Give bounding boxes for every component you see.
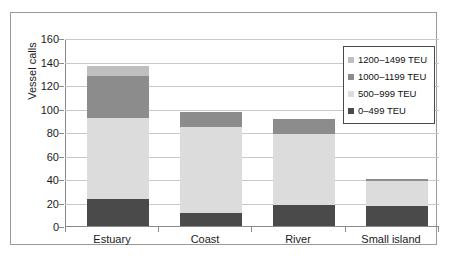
y-tick-label: 60 [15,152,59,163]
legend-swatch-icon [348,91,354,97]
x-tick-mark [438,227,439,232]
legend-item: 1200–1499 TEU [348,51,430,68]
legend-swatch-icon [348,57,354,63]
y-tick-mark [59,86,64,87]
legend-label: 1000–1199 TEU [358,72,426,82]
bar-segment-1000-1199 [273,119,335,134]
chart-frame: Vessel calls 160 140 120 100 80 60 40 20… [10,12,437,245]
y-tick-mark [59,204,64,205]
bar-segment-500-999 [180,127,242,213]
bar-segment-500-999 [87,118,149,199]
y-tick-label: 40 [15,175,59,186]
bar-small-island [366,179,428,226]
legend-label: 1200–1499 TEU [358,55,427,65]
y-axis-ticks: 160 140 120 100 80 60 40 20 0 [11,39,59,227]
bar-segment-500-999 [366,181,428,206]
y-tick-label: 20 [15,199,59,210]
y-tick-mark [59,39,64,40]
x-tick-label-small-island: Small island [336,233,446,245]
y-tick-mark [59,180,64,181]
y-tick-mark [59,227,64,228]
x-tick-mark [158,227,159,232]
bar-segment-1000-1199 [180,112,242,127]
bar-coast [180,112,242,226]
y-tick-label: 140 [15,58,59,69]
bar-segment-0-499 [180,213,242,226]
legend-label: 500–999 TEU [358,89,416,99]
chart-figure: Vessel calls 160 140 120 100 80 60 40 20… [0,0,449,260]
bar-segment-1000-1199 [87,76,149,118]
y-tick-label: 160 [15,34,59,45]
bar-segment-1200-1499 [87,66,149,75]
bar-segment-500-999 [273,134,335,205]
y-tick-mark [59,110,64,111]
bar-segment-0-499 [366,206,428,226]
bar-river [273,119,335,226]
legend-item: 0–499 TEU [348,102,430,119]
legend-swatch-icon [348,108,354,114]
x-axis-line [65,226,439,227]
legend: 1200–1499 TEU 1000–1199 TEU 500–999 TEU … [343,46,435,124]
x-tick-mark [251,227,252,232]
legend-label: 0–499 TEU [358,106,406,116]
bar-segment-0-499 [87,199,149,226]
y-tick-label: 100 [15,105,59,116]
legend-item: 1000–1199 TEU [348,68,430,85]
gridline [65,39,439,40]
legend-item: 500–999 TEU [348,85,430,102]
x-tick-mark [345,227,346,232]
bar-segment-0-499 [273,205,335,226]
bar-estuary [87,66,149,226]
y-tick-mark [59,157,64,158]
y-tick-label: 0 [15,222,59,233]
y-tick-label: 80 [15,128,59,139]
y-tick-mark [59,63,64,64]
y-tick-mark [59,133,64,134]
y-tick-label: 120 [15,81,59,92]
legend-swatch-icon [348,74,354,80]
x-tick-mark [65,227,66,232]
